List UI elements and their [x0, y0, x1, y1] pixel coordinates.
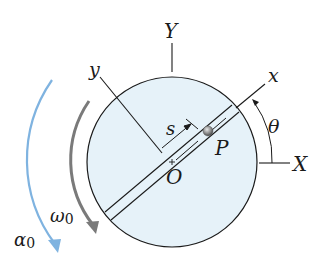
- label-omega0: ω0: [50, 205, 74, 227]
- label-O: O: [166, 165, 182, 189]
- label-y: y: [88, 58, 100, 80]
- particle-P: [203, 126, 213, 136]
- label-Y: Y: [164, 19, 179, 43]
- label-theta: θ: [268, 115, 280, 137]
- x-axis-line: [236, 84, 265, 108]
- label-X: X: [291, 152, 308, 176]
- alpha-arrowhead-icon: [48, 239, 61, 253]
- label-alpha0: α0: [14, 229, 35, 251]
- label-x: x: [268, 64, 279, 86]
- diagram-canvas: Y X y x s P O θ ω0 α0: [0, 0, 326, 266]
- label-s: s: [166, 118, 175, 139]
- rotating-disk-diagram: Y X y x s P O θ ω0 α0: [0, 0, 326, 266]
- theta-arrowhead-icon: [252, 99, 259, 106]
- omega-arrowhead-icon: [86, 221, 99, 234]
- label-P: P: [214, 136, 229, 160]
